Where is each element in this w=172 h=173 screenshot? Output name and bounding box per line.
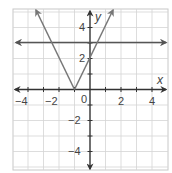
x-tick-label-2: 2 [118, 95, 124, 107]
x-tick-label-4: 4 [149, 95, 155, 107]
y-tick-label-neg4: −4 [68, 145, 81, 157]
y-tick-label-2: 2 [79, 52, 85, 64]
y-axis-label: y [94, 10, 102, 24]
x-axis-label: x [156, 73, 164, 87]
origin-label: 0 [81, 93, 87, 105]
coordinate-plane: y x −4 −2 0 2 4 4 2 −2 −4 [0, 0, 172, 173]
x-tick-label-neg4: −4 [15, 95, 28, 107]
y-tick-label-neg2: −2 [68, 114, 81, 126]
y-tick-label-4: 4 [79, 21, 85, 33]
x-tick-label-neg2: −2 [45, 95, 58, 107]
